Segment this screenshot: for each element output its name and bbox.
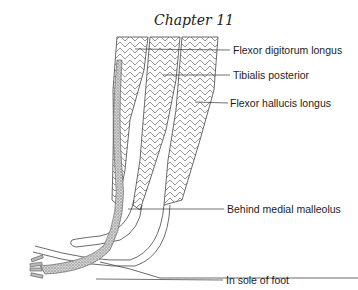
label-tibialis-posterior: Tibialis posterior [233, 69, 309, 81]
label-in-sole-of-foot: In sole of foot [226, 274, 289, 286]
label-behind-medial-malleolus: Behind medial malleolus [227, 203, 341, 215]
fdl-tendon [40, 60, 124, 274]
muscle-bellies [112, 37, 218, 210]
label-flexor-digitorum-longus: Flexor digitorum longus [233, 44, 342, 56]
label-flexor-hallucis-longus: Flexor hallucis longus [230, 97, 331, 109]
